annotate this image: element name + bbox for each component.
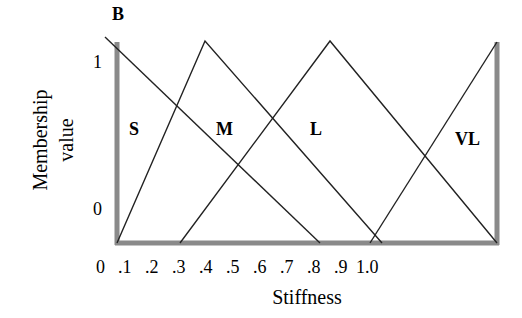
series-l-line xyxy=(180,41,497,243)
series-s-line xyxy=(105,37,320,243)
y-axis-label-line1: Membership xyxy=(29,89,52,190)
x-tick: .6 xyxy=(253,257,267,277)
x-tick: .7 xyxy=(280,257,294,277)
set-label-m: M xyxy=(216,119,233,139)
y-axis-label-line2: value xyxy=(55,118,77,161)
x-tick: .4 xyxy=(199,257,213,277)
panel-label: B xyxy=(112,4,124,24)
series-m-line xyxy=(117,41,382,243)
membership-function-chart: B 1 0 Membership value S M L VL 0 .1 .2 … xyxy=(0,0,522,318)
x-tick: 1.0 xyxy=(356,257,379,277)
x-tick: .5 xyxy=(226,257,240,277)
set-label-l: L xyxy=(310,119,322,139)
x-tick: .9 xyxy=(334,257,348,277)
set-label-s: S xyxy=(129,119,139,139)
x-tick: .1 xyxy=(118,257,132,277)
x-axis-label: Stiffness xyxy=(272,286,342,308)
x-tick: .2 xyxy=(145,257,159,277)
x-tick: .3 xyxy=(172,257,186,277)
y-tick-1: 1 xyxy=(93,52,102,72)
x-tick: .8 xyxy=(307,257,321,277)
set-label-vl: VL xyxy=(455,129,480,149)
x-tick: 0 xyxy=(96,257,105,277)
y-tick-0: 0 xyxy=(93,199,102,219)
